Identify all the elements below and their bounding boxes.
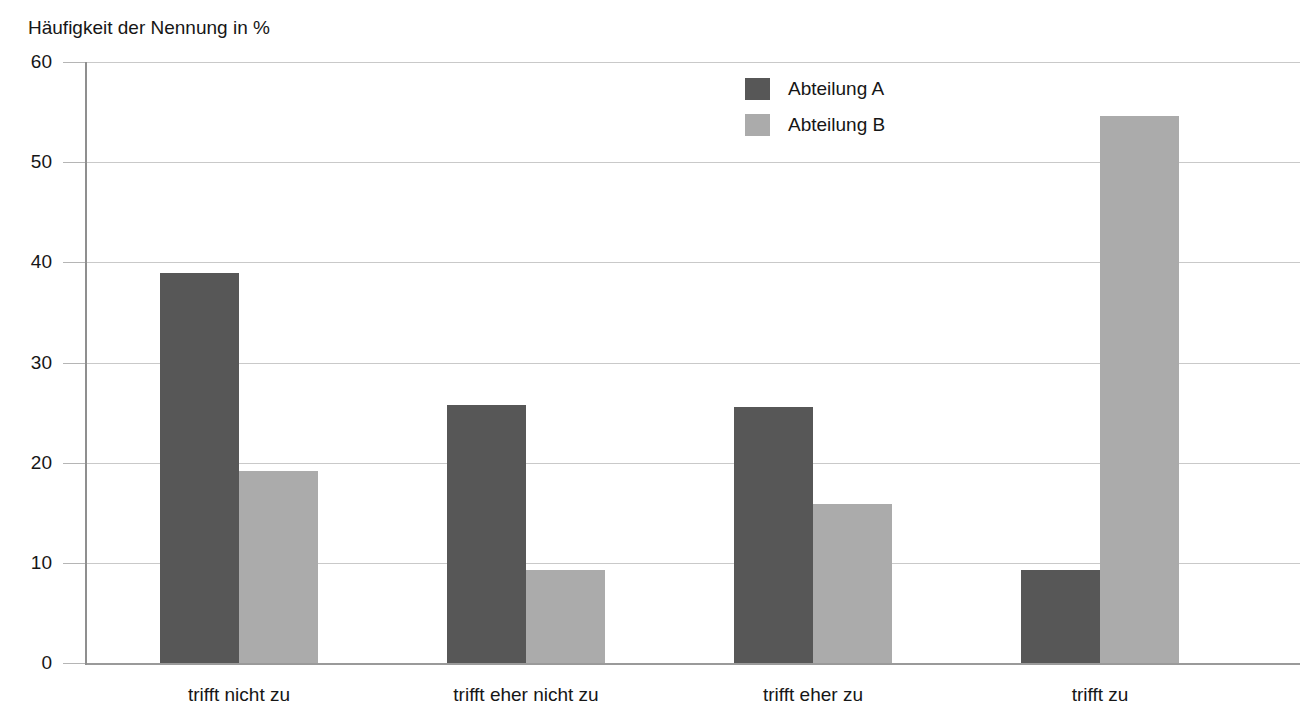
y-tick-mark-0 (63, 663, 85, 664)
y-tick-mark-60 (63, 62, 85, 63)
x-axis-label-3: trifft eher zu (763, 684, 863, 706)
legend-item-1: Abteilung A (745, 74, 885, 104)
x-axis-label-4: trifft zu (1072, 684, 1129, 706)
x-axis-label-2: trifft eher nicht zu (453, 684, 598, 706)
legend-swatch-icon-2 (745, 114, 770, 136)
legend-swatch-icon-1 (745, 78, 770, 100)
bars-layer (85, 62, 1300, 663)
y-axis-label-60: 60 (31, 52, 52, 71)
y-tick-mark-20 (63, 463, 85, 464)
y-axis-label-20: 20 (31, 453, 52, 472)
bar-a-group-4 (1021, 570, 1100, 663)
bar-a-group-3 (734, 407, 813, 663)
y-axis-title: Häufigkeit der Nennung in % (28, 16, 270, 39)
bar-b-group-3 (813, 504, 892, 663)
bar-b-group-1 (239, 471, 318, 663)
bar-b-group-2 (526, 570, 605, 663)
legend-item-2: Abteilung B (745, 110, 885, 140)
bar-a-group-2 (447, 405, 526, 663)
legend-label-2: Abteilung B (788, 114, 885, 136)
x-axis-label-1: trifft nicht zu (188, 684, 290, 706)
y-tick-mark-10 (63, 563, 85, 564)
y-axis-label-40: 40 (31, 252, 52, 271)
chart-legend: Abteilung AAbteilung B (745, 74, 885, 146)
y-tick-mark-40 (63, 262, 85, 263)
bar-a-group-1 (160, 273, 239, 663)
y-axis-label-30: 30 (31, 353, 52, 372)
y-axis-label-10: 10 (31, 553, 52, 572)
bar-chart: Häufigkeit der Nennung in % 010203040506… (0, 0, 1305, 727)
y-axis-label-50: 50 (31, 152, 52, 171)
y-tick-mark-50 (63, 162, 85, 163)
y-axis-label-0: 0 (41, 653, 52, 672)
bar-b-group-4 (1100, 116, 1179, 663)
y-tick-mark-30 (63, 363, 85, 364)
x-axis-baseline (85, 663, 1300, 665)
legend-label-1: Abteilung A (788, 78, 884, 100)
